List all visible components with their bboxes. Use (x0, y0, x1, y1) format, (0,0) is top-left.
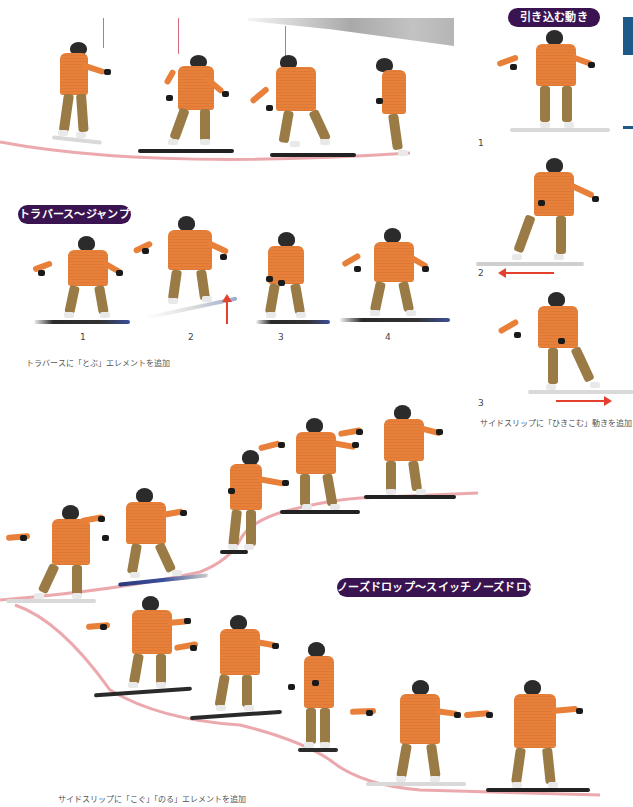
rider-figure (98, 488, 198, 588)
section-caption: サイドスリップに「ひきこむ」動きを追加 (480, 417, 632, 428)
section-badge-nose-drop: ノーズドロップ〜スイッチノーズドロップ (337, 578, 531, 597)
rider-figure (52, 42, 112, 152)
step-number: 3 (478, 398, 484, 408)
pull-arrow-right-icon (556, 400, 604, 402)
rider-figure (266, 55, 346, 160)
rider-figure (38, 236, 128, 331)
arrow-head (604, 396, 612, 406)
rider-figure (372, 58, 422, 166)
rider-figure (356, 405, 466, 500)
step-number: 1 (80, 332, 86, 342)
rider-figure (190, 615, 285, 721)
rider-figure (486, 680, 591, 795)
section-badge-traverse-jump: トラバース〜ジャンプ (18, 205, 131, 224)
rider-figure (514, 292, 624, 396)
rider-figure (256, 232, 326, 327)
section-badge-pull-in: 引き込む動き (508, 8, 600, 27)
section-caption: トラバースに「とぶ」エレメントを追加 (26, 357, 170, 368)
rider-figure (504, 158, 604, 266)
rider-figure (160, 55, 230, 160)
section-caption: サイドスリップに「こぐ」「のる」エレメントを追加 (58, 793, 246, 804)
rider-figure (340, 228, 450, 328)
step-number: 1 (478, 138, 484, 148)
arrow-head (222, 294, 232, 302)
step-number: 4 (385, 332, 391, 342)
step-number: 2 (478, 268, 484, 278)
arrow-head (498, 268, 506, 278)
step-number: 2 (188, 332, 194, 342)
rider-figure (510, 30, 610, 135)
pull-arrow-left-icon (506, 272, 554, 274)
rider-figure (366, 680, 466, 790)
rider-figure (288, 642, 348, 754)
jump-arrow-up-icon (226, 300, 228, 324)
step-number: 3 (278, 332, 284, 342)
